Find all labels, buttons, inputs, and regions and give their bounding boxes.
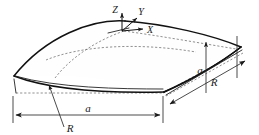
shell-diagram-figure: Z Y X a R a R	[0, 0, 259, 135]
shell-diagram-canvas: Z Y X a R a R	[0, 0, 259, 135]
z-axis-label: Z	[112, 4, 118, 15]
side-radius-label: R	[210, 76, 218, 88]
front-radius-leader	[49, 85, 64, 127]
front-span-label: a	[85, 102, 91, 114]
x-axis-label: X	[146, 24, 154, 35]
side-span-label: a	[197, 64, 203, 76]
y-axis-label: Y	[138, 6, 145, 17]
front-radius-label: R	[66, 122, 74, 134]
front-radius-leader-line	[49, 85, 64, 127]
